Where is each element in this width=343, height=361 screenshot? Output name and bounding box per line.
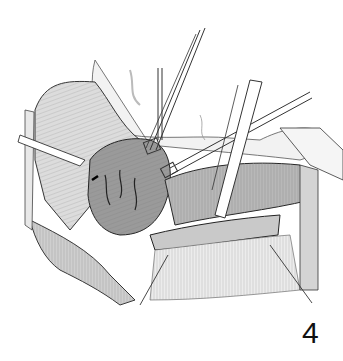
surgical-illustration	[0, 0, 343, 361]
figure-number-label: 4	[302, 318, 319, 348]
central-organ	[88, 139, 170, 235]
